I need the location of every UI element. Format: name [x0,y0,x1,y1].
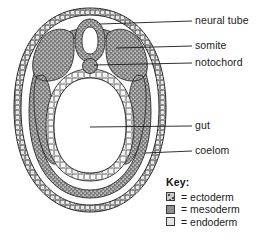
label-notochord: notochord [195,57,243,68]
figure-canvas: neural tube somite notochord gut coelom … [0,0,265,243]
label-neural-tube: neural tube [195,15,249,26]
key-entry-mesoderm: = mesoderm [166,204,263,215]
notochord [83,59,98,74]
label-gut: gut [195,120,210,131]
ectoderm-swatch-icon [166,192,175,201]
label-somite: somite [195,40,227,51]
endoderm-swatch-icon [166,217,175,226]
key-label-endoderm: = endoderm [181,216,237,228]
gut-lumen [54,78,126,173]
key-entry-endoderm: = endoderm [166,216,263,227]
leader-neural-tube [100,21,192,24]
label-coelom: coelom [195,145,229,156]
mesoderm-swatch-icon [166,205,175,214]
key-legend: Key: = ectoderm = mesoderm = endoderm [166,176,263,229]
key-entry-ectoderm: = ectoderm [166,191,263,202]
leader-coelom [145,151,192,153]
key-title: Key: [166,176,263,188]
key-label-ectoderm: = ectoderm [181,191,234,203]
key-label-mesoderm: = mesoderm [181,203,240,215]
